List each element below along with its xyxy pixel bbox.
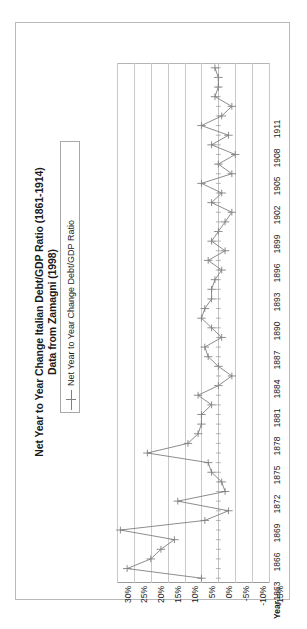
data-point-marker xyxy=(201,517,209,524)
legend-entry-label: Net Year to Year Change Debt/GDP Ratio xyxy=(66,220,76,386)
value-tick-label: -5% xyxy=(240,585,252,621)
year-tick-label: 1887 xyxy=(272,344,283,376)
year-tick-label: 1863 xyxy=(272,575,283,607)
data-point-marker xyxy=(228,209,236,216)
year-tick-label: 1881 xyxy=(272,402,283,434)
year-tick-label: 1908 xyxy=(272,142,283,174)
plot-area xyxy=(117,63,269,583)
chart-legend[interactable]: Net Year to Year Change Debt/GDP Ratio xyxy=(60,141,80,413)
data-point-marker xyxy=(207,296,215,303)
year-tick-label: 1875 xyxy=(272,459,283,491)
year-tick-label: 1884 xyxy=(272,373,283,405)
data-point-marker xyxy=(207,286,215,293)
data-point-marker xyxy=(197,180,205,187)
legend-entry[interactable]: Net Year to Year Change Debt/GDP Ratio xyxy=(61,142,81,414)
data-point-marker xyxy=(197,575,205,582)
year-tick-label: 1869 xyxy=(272,517,283,549)
value-tick-label: 15% xyxy=(172,585,184,621)
data-point-marker xyxy=(197,122,205,129)
data-point-marker xyxy=(174,498,182,505)
chart-title-line-1: Net Year to Year Change Italian Debt/GDP… xyxy=(33,167,46,456)
category-axis-tick-labels: Year186318661869187218751878188118841887… xyxy=(272,63,306,583)
series-plot xyxy=(117,63,269,583)
chart-title-line-2: Data from Zamagni (1998) xyxy=(46,249,59,375)
data-point-marker xyxy=(224,507,232,514)
value-axis-tick-labels: 30%25%20%15%10%5%0%-5%-10%-15% xyxy=(117,585,269,621)
year-tick-label: 1878 xyxy=(272,430,283,462)
data-point-marker xyxy=(201,305,209,312)
chart-frame: Net Year to Year Change Italian Debt/GDP… xyxy=(15,22,290,600)
value-tick-label: 30% xyxy=(122,585,134,621)
year-tick-label: 1893 xyxy=(272,286,283,318)
gridline--15pct xyxy=(269,63,270,583)
value-tick-label: 20% xyxy=(155,585,167,621)
value-tick-label: 25% xyxy=(138,585,150,621)
year-tick-label: 1872 xyxy=(272,488,283,520)
value-tick-label: -10% xyxy=(257,585,269,621)
data-point-marker xyxy=(221,488,229,495)
data-point-marker xyxy=(207,141,215,148)
data-point-marker xyxy=(201,344,209,351)
data-point-marker xyxy=(197,421,205,428)
year-tick-label: 1911 xyxy=(272,113,283,145)
data-point-marker xyxy=(204,459,212,466)
year-tick-label: 1899 xyxy=(272,228,283,260)
legend-marker-plus-icon xyxy=(66,390,77,410)
year-tick-label: 1905 xyxy=(272,170,283,202)
year-tick-label: 1896 xyxy=(272,257,283,289)
data-point-marker xyxy=(123,565,131,572)
data-point-marker xyxy=(116,527,124,534)
year-tick-label: 1866 xyxy=(272,546,283,578)
data-point-marker xyxy=(224,132,232,139)
year-tick-label: 1902 xyxy=(272,199,283,231)
value-tick-label: 0% xyxy=(223,585,235,621)
value-tick-label: 5% xyxy=(206,585,218,621)
data-point-marker xyxy=(143,450,151,457)
year-tick-label: 1890 xyxy=(272,315,283,347)
data-point-marker xyxy=(221,218,229,225)
value-tick-label: 10% xyxy=(189,585,201,621)
data-point-marker xyxy=(231,151,239,158)
